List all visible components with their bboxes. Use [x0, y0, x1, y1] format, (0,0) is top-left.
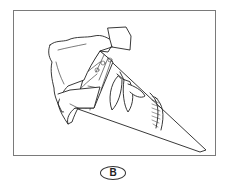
figure-label-text: B	[109, 168, 116, 178]
ice-cream-cone-illustration	[0, 0, 225, 188]
figure-label-badge: B	[100, 166, 126, 180]
